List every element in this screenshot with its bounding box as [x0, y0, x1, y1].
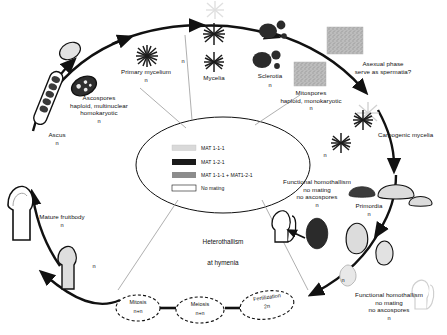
ascospore-dark [68, 72, 99, 99]
mature-fruitbody-shape [8, 186, 33, 240]
sclerotia-shape [253, 21, 287, 69]
homothallism-dark-body [306, 218, 328, 249]
ploidy-young-fruitbody: n [84, 263, 104, 269]
legend-swatch-both [172, 172, 196, 178]
legend-ellipse [136, 117, 310, 213]
stage-label-meiosis: Meiosis [178, 301, 222, 308]
legend-swatch-mat121 [172, 159, 196, 165]
carpogenic-mycelium-shape [331, 133, 351, 153]
primordium-light-large [378, 185, 414, 199]
asexual-phase-micrograph [327, 27, 363, 54]
ploidy-mycelia: n [173, 58, 193, 64]
stage-label-mitosis: Mitosis [116, 299, 160, 306]
stage-ploidy-meiosis: n+n [178, 310, 222, 317]
fruitbody-light-2 [376, 241, 393, 265]
ascus-shape [32, 70, 65, 127]
life-cycle-diagram [0, 0, 447, 335]
legend-label-3: No mating [201, 185, 224, 191]
center-text-hymenia: at hymenia [163, 259, 283, 266]
primary-mycelium-shape [136, 45, 158, 67]
mycelia-shape [203, 23, 225, 72]
stage-ploidy-mitosis: n+n [116, 308, 160, 315]
legend-label-2: MAT 1-1-1 + MAT1-2-1 [201, 172, 253, 178]
primordium-light-small [409, 197, 432, 207]
legend-swatch-mat111 [172, 145, 196, 151]
ploidy-functional-homothallism-right: n [369, 315, 409, 321]
fruitbody-light-1 [346, 223, 368, 254]
primordium-dark [349, 187, 375, 198]
ploidy-carpogenic-mycelia: n [315, 152, 335, 158]
homothallism-faded-body [412, 280, 434, 309]
legend-swatch-nomating [172, 185, 196, 191]
legend-label-1: MAT 1-2-1 [201, 159, 225, 165]
mitospore-micrograph [294, 62, 326, 86]
ploidy-ascospores: n [79, 118, 119, 124]
young-fruitbody-shape [58, 247, 76, 289]
asexual-mycelium-shape [353, 110, 373, 130]
ploidy-functional-homothallism-center: n [297, 202, 337, 208]
center-text-heterothallism: Heterothallism [163, 238, 283, 245]
ploidy-mitospores: n [291, 105, 331, 111]
ploidy-primary-mycelium: n [126, 77, 166, 83]
ploidy-sclerotia: n [249, 82, 291, 88]
ploidy-lower-right: n [333, 277, 353, 283]
ploidy-mature-fruitbody: n [42, 222, 82, 228]
ploidy-primordia: n [349, 211, 389, 217]
legend-label-0: MAT 1-1-1 [201, 145, 225, 151]
ascospore-light [57, 39, 84, 63]
ploidy-ascus: n [38, 140, 76, 146]
